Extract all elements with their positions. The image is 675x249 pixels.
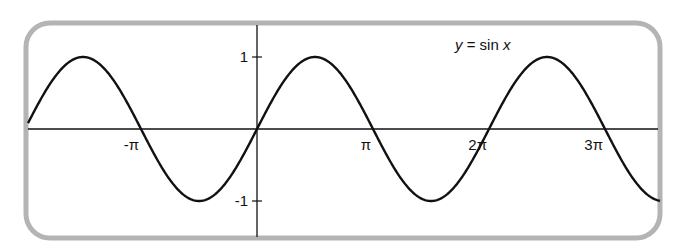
chart-frame [26,23,660,238]
x-tick-label: π [361,136,371,153]
x-tick-label: -π [124,136,139,153]
x-tick-label: 3π [584,136,603,153]
y-tick-label: -1 [235,192,248,209]
sine-chart: 1-1 -ππ2π3π y = sin x [0,0,675,249]
function-label: y = sin x [454,36,511,53]
y-tick-label: 1 [240,48,248,65]
